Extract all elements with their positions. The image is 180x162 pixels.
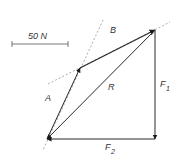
label-f2-sub: 2 xyxy=(110,148,115,155)
dashed-line-a-extension xyxy=(43,20,103,150)
label-f1: F 1 xyxy=(160,79,170,92)
vector-a-arrow xyxy=(47,68,80,139)
label-f1-sub: 1 xyxy=(166,85,170,92)
vector-diagram: 50 N A B R F 1 F 2 xyxy=(0,0,180,162)
label-r: R xyxy=(108,82,115,92)
label-b: B xyxy=(110,25,116,35)
scale-bar-label: 50 N xyxy=(28,31,48,41)
vector-b-arrow xyxy=(80,30,155,68)
label-a: A xyxy=(44,93,51,103)
scale-bar: 50 N xyxy=(12,31,68,47)
vector-r-arrow xyxy=(47,30,155,139)
label-f2: F 2 xyxy=(105,142,115,155)
